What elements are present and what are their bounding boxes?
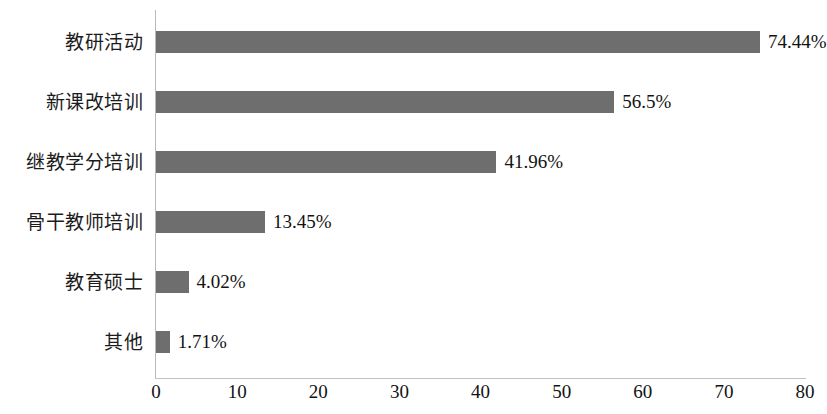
- x-tick-label: 0: [126, 381, 186, 403]
- bar: [156, 211, 265, 233]
- category-label: 教育硕士: [0, 252, 143, 312]
- bar-row: 骨干教师培训13.45%: [0, 192, 827, 252]
- x-tick-label: 80: [775, 381, 827, 403]
- bar-row: 其他1.71%: [0, 312, 827, 372]
- bar-row: 教育硕士4.02%: [0, 252, 827, 312]
- x-axis-line: [155, 378, 806, 379]
- x-tick-label: 60: [613, 381, 673, 403]
- bar-value-label: 4.02%: [189, 271, 246, 293]
- x-tick-label: 50: [532, 381, 592, 403]
- x-tick-label: 70: [694, 381, 754, 403]
- bar: [156, 91, 614, 113]
- bar: [156, 31, 760, 53]
- bar-row: 继教学分培训41.96%: [0, 132, 827, 192]
- x-tick-label: 10: [207, 381, 267, 403]
- bar-chart: 教研活动74.44%新课改培训56.5%继教学分培训41.96%骨干教师培训13…: [0, 0, 827, 414]
- bar-row: 教研活动74.44%: [0, 12, 827, 72]
- category-label: 骨干教师培训: [0, 192, 143, 252]
- x-tick-label: 20: [288, 381, 348, 403]
- bar-value-label: 74.44%: [760, 31, 827, 53]
- bar: [156, 331, 170, 353]
- x-tick-label: 30: [369, 381, 429, 403]
- bar-row: 新课改培训56.5%: [0, 72, 827, 132]
- category-label: 其他: [0, 312, 143, 372]
- bar: [156, 271, 189, 293]
- bar-value-label: 13.45%: [265, 211, 332, 233]
- bar-value-label: 41.96%: [496, 151, 563, 173]
- category-label: 教研活动: [0, 12, 143, 72]
- bar-value-label: 56.5%: [614, 91, 671, 113]
- category-label: 新课改培训: [0, 72, 143, 132]
- bar: [156, 151, 496, 173]
- category-label: 继教学分培训: [0, 132, 143, 192]
- x-tick-label: 40: [451, 381, 511, 403]
- x-axis-tick-labels: 01020304050607080: [0, 381, 827, 414]
- plot-area: 教研活动74.44%新课改培训56.5%继教学分培训41.96%骨干教师培训13…: [0, 0, 827, 414]
- bar-value-label: 1.71%: [170, 331, 227, 353]
